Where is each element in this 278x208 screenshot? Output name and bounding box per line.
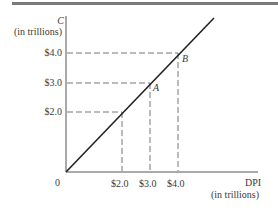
consumption-line bbox=[66, 18, 214, 172]
x-tick-4: $4.0 bbox=[167, 178, 185, 189]
y-tick-2: $2.0 bbox=[20, 106, 62, 117]
x-tick-2: $2.0 bbox=[111, 178, 129, 189]
point-a-label: A bbox=[153, 82, 159, 93]
y-axis-unit: (in trillions) bbox=[0, 26, 62, 37]
point-b-label: B bbox=[182, 53, 188, 64]
y-tick-4: $4.0 bbox=[20, 47, 62, 58]
y-tick-3: $3.0 bbox=[20, 77, 62, 88]
y-axis-label: C bbox=[40, 15, 64, 26]
x-tick-3: $3.0 bbox=[139, 178, 157, 189]
origin-label: 0 bbox=[55, 177, 60, 188]
x-axis-unit: (in trillions) bbox=[211, 189, 259, 200]
x-axis-label: DPI bbox=[245, 177, 261, 188]
